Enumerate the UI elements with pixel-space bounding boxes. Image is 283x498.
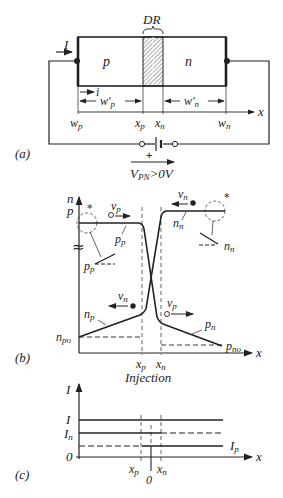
tick-xn-c: xn xyxy=(156,462,167,477)
panel-c-label: (c) xyxy=(15,467,29,482)
battery-plus: + xyxy=(146,149,152,161)
svg-text:x: x xyxy=(257,104,264,119)
level-i-label: I xyxy=(65,412,71,427)
n-region-label: n xyxy=(185,54,192,69)
tick-wp: wp xyxy=(70,116,83,131)
pno-label: pno xyxy=(225,339,242,354)
svg-text:x: x xyxy=(255,345,262,360)
svg-text:x: x xyxy=(255,449,262,464)
level-in-label: In xyxy=(63,426,73,442)
inset-pp-label: pp xyxy=(83,259,95,274)
vn-bottom-label: vn xyxy=(118,289,128,304)
tick-xn-a: xn xyxy=(154,116,165,131)
svg-text:I: I xyxy=(65,382,71,397)
small-current-label: i xyxy=(96,85,99,99)
level-zero-label: 0 xyxy=(66,449,73,464)
vp-top-label: vp xyxy=(111,199,121,214)
current-label: I xyxy=(63,37,69,52)
origin-label: 0 xyxy=(146,473,152,487)
nn-label: nn xyxy=(173,216,184,231)
tick-xp-c: xp xyxy=(128,462,139,477)
dr-brace xyxy=(143,26,163,34)
panel-b-label: (b) xyxy=(15,350,30,365)
curve-nn-np xyxy=(79,211,225,337)
vn-top-label: vn xyxy=(178,187,188,202)
npo-label: npo xyxy=(56,330,72,345)
vp-bottom-label: vp xyxy=(167,296,177,311)
svg-text:*: * xyxy=(87,202,93,215)
panel-c: I x I In 0 Ip xp xn 0 (c) xyxy=(15,382,262,487)
dr-label: DR xyxy=(142,12,160,27)
voltage-label: VPN>0V xyxy=(130,166,175,182)
wn-prime-label: w'n xyxy=(184,94,200,109)
svg-text:p: p xyxy=(66,203,74,218)
tick-xp-a: xp xyxy=(134,116,145,131)
pn-label: pn xyxy=(204,317,216,332)
ip-label: Ip xyxy=(229,438,239,454)
pn-junction-diagram: DR p n I + VPN>0V (a) x i w'p xyxy=(0,0,283,498)
tick-wn: wn xyxy=(218,116,231,131)
inset-nn-label: nn xyxy=(224,239,235,254)
panel-b: n p x ≈ npo pno pp nn np pn vp vn v xyxy=(15,187,262,385)
p-region-label: p xyxy=(102,54,110,69)
np-label: np xyxy=(84,307,95,322)
pp-label: pp xyxy=(114,232,126,247)
panel-a: DR p n I + VPN>0V (a) x i w'p xyxy=(15,12,269,182)
svg-text:*: * xyxy=(224,191,230,204)
wp-prime-label: w'p xyxy=(100,94,116,109)
axis-break-symbol: ≈ xyxy=(72,238,85,256)
panel-a-label: (a) xyxy=(15,146,30,161)
injection-caption: Injection xyxy=(124,370,171,385)
